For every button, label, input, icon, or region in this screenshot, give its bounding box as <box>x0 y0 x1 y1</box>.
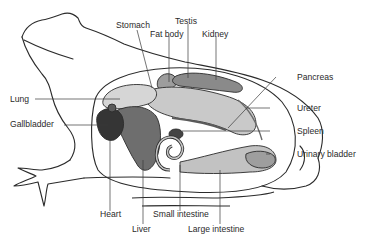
frog-anatomy-diagram <box>0 0 367 242</box>
label-urinary-bladder: Urinary bladder <box>297 150 356 159</box>
label-stomach: Stomach <box>116 21 150 30</box>
label-testis: Testis <box>175 17 197 26</box>
label-fat-body: Fat body <box>150 30 183 39</box>
gallbladder <box>108 104 116 112</box>
label-lung: Lung <box>10 95 29 104</box>
label-liver: Liver <box>132 225 151 234</box>
label-small-intestine: Small intestine <box>153 210 209 219</box>
organs <box>97 73 276 173</box>
stomach <box>145 87 256 135</box>
label-heart: Heart <box>100 210 121 219</box>
heart <box>97 109 124 141</box>
label-kidney: Kidney <box>202 30 228 39</box>
label-pancreas: Pancreas <box>297 73 333 82</box>
label-spleen: Spleen <box>297 127 324 136</box>
label-gallbladder: Gallbladder <box>10 120 54 129</box>
label-large-intestine: Large intestine <box>188 225 244 234</box>
label-ureter: Ureter <box>297 104 321 113</box>
